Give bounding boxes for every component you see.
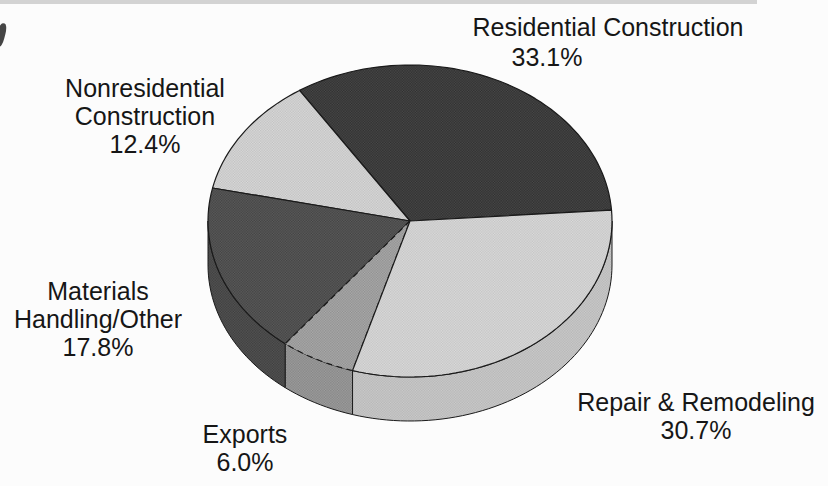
- pie-chart: [0, 0, 828, 486]
- pie-chart-figure: Residential Construction33.1%Nonresident…: [0, 0, 828, 486]
